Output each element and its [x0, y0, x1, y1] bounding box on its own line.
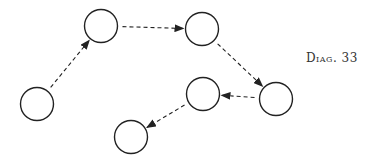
edges — [51, 27, 263, 128]
node-A — [21, 88, 54, 121]
node-E — [187, 78, 220, 111]
node-B — [85, 10, 118, 43]
diagram-canvas — [0, 0, 375, 165]
diagram-label: Diag. 33 — [306, 51, 358, 65]
edge-D-to-E — [221, 95, 254, 97]
edge-E-to-F — [147, 105, 185, 127]
nodes — [21, 10, 293, 154]
edge-C-to-D — [218, 44, 263, 87]
node-C — [186, 13, 219, 46]
edge-B-to-C — [122, 27, 183, 29]
edge-A-to-B — [51, 40, 90, 87]
node-D — [260, 83, 293, 116]
node-F — [115, 121, 148, 154]
